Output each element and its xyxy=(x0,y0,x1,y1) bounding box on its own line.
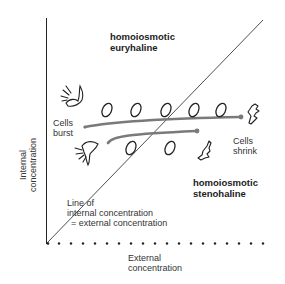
cells-burst-label: Cells burst xyxy=(53,118,73,138)
y-axis-label-line1: Internal xyxy=(18,138,28,192)
isoline-line2: internal concentration xyxy=(67,208,167,218)
region-euryhaline-line1: homoiosmotic xyxy=(110,31,175,42)
burst-cell-bottom-icon xyxy=(75,142,98,165)
cells-shrink-line2: shrink xyxy=(233,146,257,156)
x-axis-label: External concentration xyxy=(128,253,182,273)
cells-burst-line1: Cells xyxy=(53,118,73,128)
cells-shrink-label: Cells shrink xyxy=(233,136,257,156)
cell-ovals-top xyxy=(100,102,228,118)
isoline-label: Line of internal concentration = externa… xyxy=(67,198,167,228)
isoline-line1: Line of xyxy=(67,198,167,208)
region-label-stenohaline: homoiosmotic stenohaline xyxy=(193,177,258,199)
cells-shrink-line1: Cells xyxy=(233,136,257,146)
lower-arrow xyxy=(108,131,196,143)
isoline-line3: = external concentration xyxy=(67,218,167,228)
x-axis-label-line2: concentration xyxy=(128,263,182,273)
region-stenohaline-line2: stenohaline xyxy=(193,188,258,199)
upper-arrow xyxy=(85,117,240,127)
x-axis-label-line1: External xyxy=(128,253,182,263)
cell-ovals-bottom xyxy=(124,140,177,156)
x-axis-dotted xyxy=(47,242,264,245)
burst-cell-top-icon xyxy=(61,86,83,106)
shrunk-cell-top-icon xyxy=(248,104,259,124)
y-axis-label: Internal concentration xyxy=(18,138,38,192)
region-label-euryhaline: homoiosmotic euryhaline xyxy=(110,31,175,53)
cells-burst-line2: burst xyxy=(53,128,73,138)
region-stenohaline-line1: homoiosmotic xyxy=(193,177,258,188)
shrunk-cell-bottom-icon xyxy=(198,141,211,160)
y-axis-label-line2: concentration xyxy=(28,138,38,192)
region-euryhaline-line2: euryhaline xyxy=(110,42,175,53)
